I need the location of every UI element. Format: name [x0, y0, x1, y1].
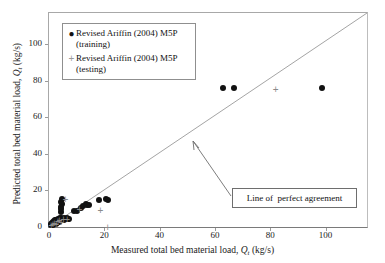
legend-testing-line1: Revised Ariffin (2004) M5P: [76, 53, 178, 63]
y-axis-title: Predicted total bed material load, Qt (k…: [12, 14, 24, 234]
data-point-testing: +: [76, 206, 83, 213]
legend: ● Revised Ariffin (2004) M5P (training) …: [62, 23, 196, 80]
plus-marker-icon: +: [67, 53, 76, 64]
data-point-training: [220, 85, 226, 91]
x-tick-label-60: 60: [200, 230, 230, 240]
legend-item-testing: + Revised Ariffin (2004) M5P (testing): [67, 53, 192, 75]
annotation-label: Line of perfect agreement: [247, 193, 342, 203]
data-point-training: [105, 197, 111, 203]
legend-item-testing-label: Revised Ariffin (2004) M5P (testing): [76, 53, 178, 75]
x-tick-label-0: 0: [34, 230, 64, 240]
data-point-testing: +: [97, 207, 104, 214]
legend-training-line2: (training): [76, 39, 178, 50]
data-point-testing: +: [272, 86, 279, 93]
legend-training-line1: Revised Ariffin (2004) M5P: [76, 28, 178, 38]
y-tickmark-80: [45, 81, 48, 82]
x-tick-label-40: 40: [145, 230, 175, 240]
x-axis-title: Measured total bed material load, Qt (kg…: [0, 245, 385, 257]
x-tickmark-20: [104, 228, 105, 231]
x-tickmark-100: [326, 228, 327, 231]
filled-circle-marker-icon: ●: [67, 28, 76, 39]
x-tickmark-40: [160, 228, 161, 231]
x-axis-title-symbol: Q: [241, 245, 248, 255]
y-tickmark-20: [45, 190, 48, 191]
data-point-testing: +: [62, 196, 69, 203]
y-axis-title-subscript: t: [16, 68, 24, 70]
y-axis-title-prefix: Predicted total bed material load,: [12, 76, 22, 204]
legend-testing-line2: (testing): [76, 64, 178, 75]
x-tickmark-80: [270, 228, 271, 231]
legend-item-training: ● Revised Ariffin (2004) M5P (training): [67, 28, 192, 50]
x-axis-title-prefix: Measured total bed material load,: [111, 245, 241, 255]
y-axis-title-suffix: (kg/s): [12, 43, 22, 68]
x-tick-label-100: 100: [311, 230, 341, 240]
y-axis-title-symbol: Q: [12, 69, 22, 76]
y-tickmark-60: [45, 117, 48, 118]
y-tickmark-40: [45, 154, 48, 155]
y-tickmark-100: [45, 44, 48, 45]
scatter-plot-figure: ++++++++++++++ 020406080100 020406080100…: [0, 0, 385, 263]
x-tickmark-60: [215, 228, 216, 231]
legend-item-training-label: Revised Ariffin (2004) M5P (training): [76, 28, 178, 50]
x-tick-label-80: 80: [255, 230, 285, 240]
data-point-testing: +: [64, 216, 71, 223]
x-tick-label-20: 20: [89, 230, 119, 240]
annotation-line-of-perfect-agreement: Line of perfect agreement: [232, 188, 357, 208]
x-axis-title-suffix: (kg/s): [250, 245, 275, 255]
